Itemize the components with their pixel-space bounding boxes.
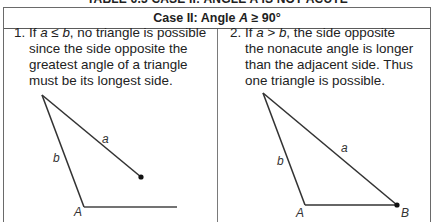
figure-case-1: a b A: [42, 95, 177, 219]
side-a-line: [263, 93, 397, 205]
label-B: B: [401, 206, 409, 220]
label-a: a: [102, 132, 109, 146]
label-b: b: [53, 151, 60, 165]
label-a: a: [341, 141, 348, 155]
vertex-B-dot-icon: [394, 202, 399, 207]
label-b: b: [277, 154, 284, 168]
label-A: A: [73, 205, 82, 219]
figure-case-2: a b A B: [263, 93, 409, 220]
endpoint-dot-icon: [138, 174, 143, 179]
label-A: A: [295, 206, 304, 220]
triangle-figures: a b A a b A B: [0, 0, 435, 222]
